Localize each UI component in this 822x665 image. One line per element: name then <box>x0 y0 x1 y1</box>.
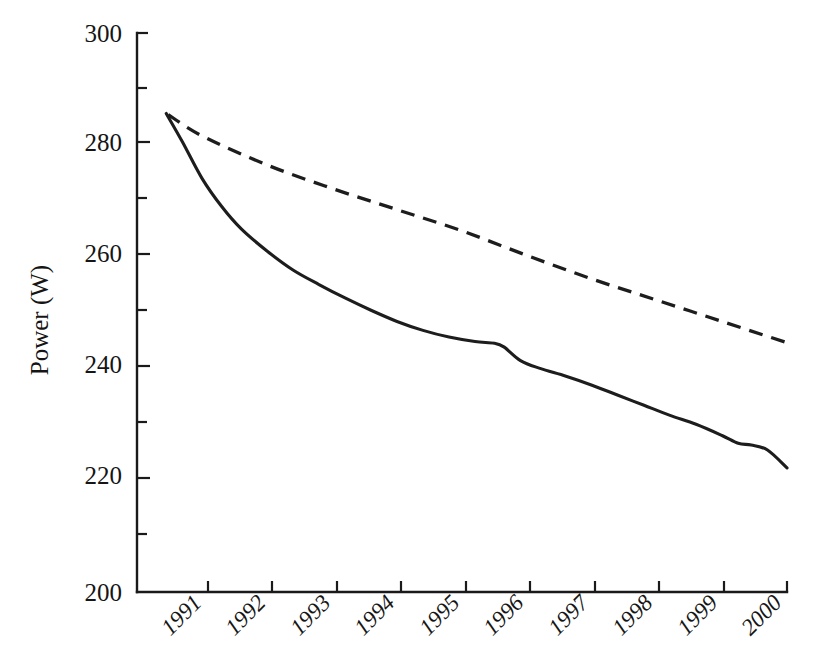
solid-power-curve <box>166 114 787 468</box>
x-tick-label: 1991 <box>156 590 206 640</box>
x-tick-label: 1994 <box>349 590 399 640</box>
y-tick-label: 280 <box>85 129 123 156</box>
y-tick-label: 240 <box>85 351 123 378</box>
x-tick-label: 2000 <box>736 590 787 641</box>
x-tick-label: 1996 <box>478 590 529 641</box>
y-minor-ticks <box>137 88 147 534</box>
y-tick-label: 300 <box>85 20 123 47</box>
x-tick-label: 1995 <box>414 590 464 640</box>
chart-figure: Power (W) 300 280 260 240 220 200 <box>0 0 822 665</box>
x-tick-labels: 1991 1992 1993 1994 1995 1996 1997 1998 … <box>156 589 787 640</box>
x-ticks <box>208 581 787 592</box>
y-tick-labels: 300 280 260 240 220 200 <box>85 20 123 606</box>
y-tick-label: 200 <box>85 579 123 606</box>
x-tick-label: 1998 <box>607 590 658 641</box>
y-tick-label: 220 <box>85 462 123 489</box>
x-tick-label: 1997 <box>543 589 594 640</box>
x-tick-label: 1993 <box>285 590 335 640</box>
dashed-trend-line <box>168 115 787 343</box>
y-tick-label: 260 <box>85 240 123 267</box>
x-tick-label: 1992 <box>220 590 270 640</box>
x-tick-label: 1999 <box>672 590 723 641</box>
y-axis-title: Power (W) <box>26 265 54 375</box>
line-chart-canvas: Power (W) 300 280 260 240 220 200 <box>0 0 822 665</box>
